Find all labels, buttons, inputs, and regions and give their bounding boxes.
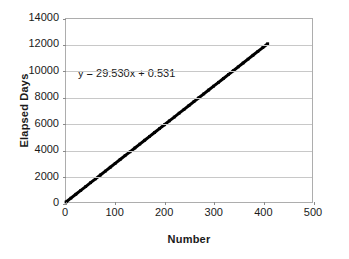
scatter-chart: Elapsed Days 020004000600080001000012000… [0,0,349,259]
gridline-horizontal [66,98,312,99]
x-tick-label: 200 [144,206,184,218]
x-tick-label: 300 [194,206,234,218]
data-point-marker [153,131,156,134]
y-tick-label: 6000 [14,118,59,129]
y-tick-mark [63,124,66,125]
data-point-marker [202,93,205,96]
x-tick-label: 400 [243,206,283,218]
data-point-marker [79,189,82,192]
data-point-marker [261,46,264,49]
data-point-marker [119,158,122,161]
x-tick-mark [66,202,67,205]
x-tick-label: 0 [45,206,85,218]
y-tick-label: 14000 [14,12,59,23]
data-point-marker [217,81,220,84]
data-point-marker [193,100,196,103]
data-point-marker [188,104,191,107]
y-tick-label: 8000 [14,91,59,102]
y-tick-mark [63,71,66,72]
x-tick-mark [214,202,215,205]
x-tick-label: 100 [95,206,135,218]
y-tick-label: 12000 [14,38,59,49]
series-line [66,19,312,202]
plot-area: y = 29.530x + 0.531 [65,18,313,203]
data-point-marker [138,143,141,146]
x-tick-mark [264,202,265,205]
data-point-marker [124,154,127,157]
y-tick-mark [63,177,66,178]
x-tick-mark [314,202,315,205]
data-point-marker [89,181,92,184]
data-point-marker [252,54,255,57]
x-tick-mark [165,202,166,205]
data-point-marker [256,50,259,53]
gridline-horizontal [66,124,312,125]
x-axis-tick-labels: 0100200300400500 [65,206,313,220]
data-point-marker [247,58,250,61]
data-point-marker [114,162,117,165]
y-tick-label: 2000 [14,171,59,182]
x-tick-mark [115,202,116,205]
data-point-marker [222,77,225,80]
data-point-marker [70,197,73,200]
trendline-equation-label: y = 29.530x + 0.531 [78,67,175,79]
data-point-marker [104,170,107,173]
data-point-marker [143,139,146,142]
data-point-marker [74,193,77,196]
data-point-marker [148,135,151,138]
data-point-marker [173,116,176,119]
x-axis-title: Number [65,233,313,245]
y-tick-label: 4000 [14,144,59,155]
gridline-horizontal [66,177,312,178]
y-axis-tick-labels: 02000400060008000100001200014000 [14,0,59,259]
data-point-marker [227,73,230,76]
data-point-marker [168,120,171,123]
y-tick-mark [63,45,66,46]
data-point-marker [183,108,186,111]
data-point-marker [242,62,245,65]
data-point-marker [158,127,161,130]
data-point-marker [109,166,112,169]
data-point-marker [84,185,87,188]
y-tick-label: 10000 [14,65,59,76]
x-tick-label: 500 [293,206,333,218]
data-point-marker [133,147,136,150]
gridline-horizontal [66,71,312,72]
data-point-marker [212,85,215,88]
gridline-horizontal [66,45,312,46]
y-tick-mark [63,98,66,99]
data-point-marker [237,65,240,68]
y-tick-mark [63,19,66,20]
gridline-horizontal [66,151,312,152]
data-point-marker [207,89,210,92]
data-point-marker [178,112,181,115]
y-tick-mark [63,151,66,152]
data-point-marker [99,174,102,177]
